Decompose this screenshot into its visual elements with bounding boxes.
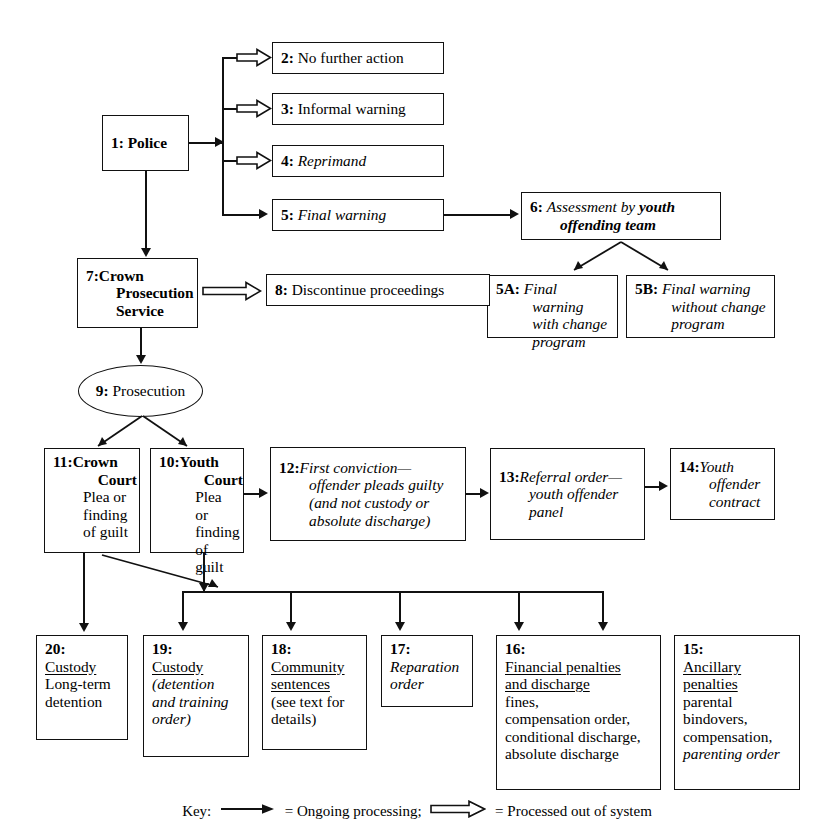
arrowhead-cps-to-prosecution — [136, 355, 146, 364]
node-11-number: 11: — [53, 453, 73, 470]
node-5-label: Final warning — [298, 206, 387, 223]
node-15-body-4: parenting order — [683, 745, 780, 762]
node-15-body-1: parental — [683, 693, 733, 710]
arrowhead-node-12-to-node-13 — [480, 488, 489, 498]
node-12-line-3: (and not custody or — [309, 494, 429, 511]
node-19-custody-detention-and-training-order[interactable]: 19: Custody (detention and training orde… — [143, 635, 249, 757]
node-18-body-2: details) — [271, 710, 316, 727]
arrowhead-police-to-cps — [141, 248, 151, 257]
node-7-line-1: Crown — [99, 267, 144, 284]
node-4-reprimand[interactable]: 4: Reprimand — [272, 145, 444, 177]
node-20-custody-long-term-detention[interactable]: 20: Custody Long-term detention — [36, 635, 128, 740]
node-3-label: Informal warning — [298, 100, 406, 117]
node-13-referral-order-youth-offender-panel[interactable]: 13:Referral order— youth offender panel — [490, 448, 645, 540]
bus-drop-to-node-19 — [182, 591, 184, 625]
node-5b-label: Final warning without change program — [662, 280, 766, 332]
node-18-community-sentences[interactable]: 18: Community sentences (see text for de… — [262, 635, 367, 750]
edge-cps-to-prosecution — [140, 328, 142, 357]
node-20-body-2: detention — [45, 693, 102, 710]
node-18-heading-2: sentences — [271, 675, 330, 692]
hollow-arrow-cps-to-discontinue — [202, 281, 262, 301]
arrowhead-bus-to-node-18 — [286, 622, 296, 631]
node-17-line-1: Reparation — [390, 658, 459, 675]
node-16-body-3: conditional discharge, — [505, 728, 641, 745]
legend-hollow-meaning: = Processed out of system — [495, 803, 652, 820]
node-10-line-3: Plea or — [195, 488, 222, 523]
node-12-line-4: absolute discharge) — [309, 512, 430, 529]
node-12-number: 12: — [279, 459, 300, 476]
node-17-reparation-order[interactable]: 17: Reparation order — [381, 635, 473, 707]
node-18-body-1: (see text for — [271, 693, 345, 710]
node-5b-final-warning-without-change-program[interactable]: 5B: Final warning without change program — [626, 275, 775, 338]
node-9-prosecution[interactable]: 9: Prosecution — [78, 365, 203, 417]
node-12-first-conviction[interactable]: 12:First conviction— offender pleads gui… — [270, 447, 466, 541]
node-4-number: 4: — [281, 152, 294, 169]
node-3-informal-warning[interactable]: 3: Informal warning — [272, 93, 444, 125]
solid-arrow-icon — [220, 802, 276, 820]
node-13-number: 13: — [499, 468, 520, 485]
node-8-label: Discontinue proceedings — [292, 281, 445, 298]
node-7-line-3: Service — [116, 302, 164, 319]
node-14-number: 14: — [679, 458, 700, 475]
node-11-line-4: finding — [83, 506, 127, 523]
node-13-line-1: Referral order— — [520, 468, 622, 485]
node-8-discontinue-proceedings[interactable]: 8: Discontinue proceedings — [266, 274, 490, 306]
hollow-arrow-to-node-2 — [236, 48, 272, 67]
node-14-line-2: offender — [709, 475, 760, 492]
node-16-financial-penalties-and-discharge[interactable]: 16: Financial penalties and discharge fi… — [496, 635, 661, 790]
arrowhead-bus-to-node-19 — [178, 622, 188, 631]
node-5a-final-warning-with-change-program[interactable]: 5A: Final warning with change program — [487, 275, 618, 338]
bus-drop-to-node-17 — [399, 591, 401, 625]
edge-bus-to-node-5 — [222, 214, 260, 216]
bus-drop-to-node-16 — [518, 591, 520, 625]
node-10-line-4: finding — [195, 523, 239, 540]
node-16-heading-2: and discharge — [505, 675, 590, 692]
node-17-line-2: order — [390, 675, 424, 692]
node-15-heading-2: penalties — [683, 675, 738, 692]
node-19-body-2: and training — [152, 693, 229, 710]
node-15-number: 15: — [683, 640, 704, 657]
distribution-bus-vertical — [222, 57, 224, 215]
node-4-label: Reprimand — [298, 152, 366, 169]
node-15-ancillary-penalties[interactable]: 15: Ancillary penalties parental bindove… — [674, 635, 800, 790]
node-15-body-2: bindovers, — [683, 710, 748, 727]
edge-crown-court-to-node-20 — [83, 553, 85, 625]
node-7-crown-prosecution-service[interactable]: 7:Crown Prosecution Service — [77, 258, 198, 328]
node-10-youth-court[interactable]: 10:Youth Court Plea or finding of guilt — [150, 448, 244, 553]
node-11-line-3: Plea or — [83, 488, 126, 505]
node-14-youth-offender-contract[interactable]: 14:Youth offender contract — [670, 448, 775, 520]
outcome-distribution-bus — [182, 591, 603, 593]
node-5-final-warning[interactable]: 5: Final warning — [272, 199, 444, 231]
node-9-number: 9: — [96, 382, 109, 399]
node-10-line-2: Court — [195, 471, 243, 488]
legend-solid-meaning: = Ongoing processing; — [285, 803, 422, 820]
node-20-body-1: Long-term — [45, 675, 111, 692]
node-15-body-3: compensation, — [683, 728, 772, 745]
hollow-arrow-to-node-4 — [236, 151, 272, 170]
node-2-no-further-action[interactable]: 2: No further action — [272, 42, 444, 74]
node-11-crown-court[interactable]: 11:Crown Court Plea or finding of guilt — [44, 448, 140, 553]
node-20-heading: Custody — [45, 658, 96, 675]
edge-police-to-cps — [145, 171, 147, 250]
legend-key: Key: = Ongoing processing; = Processed o… — [0, 800, 834, 822]
arrowhead-bus-to-node-5 — [259, 209, 268, 219]
node-6-assessment-by-youth-offending-team[interactable]: 6: Assessment by youth offending team — [521, 192, 721, 240]
node-1-police[interactable]: 1: Police — [102, 115, 189, 171]
node-7-line-2: Prosecution — [116, 284, 194, 301]
node-16-body-1: fines, — [505, 693, 539, 710]
arrowhead-youth-court-to-node-12 — [259, 488, 268, 498]
node-15-heading-1: Ancillary — [683, 658, 741, 675]
node-7-number: 7: — [86, 267, 99, 284]
node-16-body-2: compensation order, — [505, 710, 630, 727]
node-14-line-3: contract — [709, 493, 760, 510]
legend-label: Key: — [182, 803, 211, 820]
node-1-label: Police — [128, 134, 167, 151]
node-13-line-3: panel — [529, 503, 563, 520]
node-9-label: Prosecution — [113, 382, 186, 399]
node-6-label-a: Assessment by — [547, 198, 639, 215]
arrowhead-crown-court-to-node-20 — [79, 623, 89, 632]
node-8-number: 8: — [275, 281, 288, 298]
node-14-line-1: Youth — [700, 458, 735, 475]
node-17-number: 17: — [390, 640, 411, 657]
node-5a-number: 5A: — [496, 280, 520, 297]
